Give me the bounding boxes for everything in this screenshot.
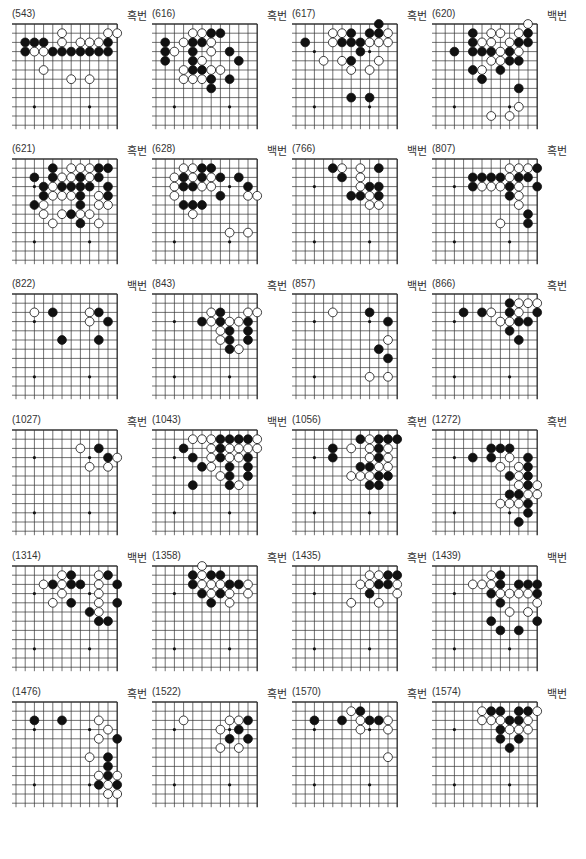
go-problem: (1435)흑번 [292, 550, 427, 678]
black-stone [225, 734, 234, 743]
white-stone [505, 173, 514, 182]
black-stone [94, 164, 103, 173]
white-stone [234, 444, 243, 453]
white-stone [104, 462, 113, 471]
white-stone [478, 716, 487, 725]
black-stone [207, 598, 216, 607]
black-stone [198, 173, 207, 182]
black-stone [356, 38, 365, 47]
white-stone [328, 308, 337, 317]
white-stone [393, 580, 402, 589]
black-stone [505, 299, 514, 308]
white-stone [58, 589, 67, 598]
black-stone [207, 84, 216, 93]
black-stone [179, 173, 188, 182]
white-stone [533, 299, 542, 308]
turn-label: 흑번 [127, 7, 147, 23]
black-stone [67, 571, 76, 580]
white-stone [374, 571, 383, 580]
black-stone [365, 481, 374, 490]
black-stone [94, 617, 103, 626]
black-stone [514, 734, 523, 743]
white-stone [384, 444, 393, 453]
star-point [228, 783, 231, 786]
white-stone [94, 608, 103, 617]
turn-label: 백번 [547, 685, 567, 701]
white-stone [253, 435, 262, 444]
go-board [152, 698, 269, 813]
star-point [173, 240, 176, 243]
problem-number: (1358) [152, 550, 181, 561]
white-stone [338, 56, 347, 65]
star-point [88, 592, 91, 595]
black-stone [328, 164, 337, 173]
black-stone [58, 716, 67, 725]
white-stone [365, 38, 374, 47]
black-stone [347, 38, 356, 47]
black-stone [94, 336, 103, 345]
white-stone [234, 716, 243, 725]
problem-number: (1435) [292, 550, 321, 561]
white-stone [496, 589, 505, 598]
black-stone [58, 336, 67, 345]
black-stone [496, 66, 505, 75]
white-stone [533, 490, 542, 499]
black-stone [188, 201, 197, 210]
white-stone [244, 228, 253, 237]
black-stone [478, 75, 487, 84]
black-stone [39, 182, 48, 191]
go-board [152, 155, 269, 270]
black-stone [514, 336, 523, 345]
black-stone [76, 580, 85, 589]
white-stone [58, 191, 67, 200]
go-problem: (1574)백번 [432, 686, 567, 814]
white-stone [48, 191, 57, 200]
white-stone [216, 326, 225, 335]
white-stone [225, 317, 234, 326]
black-stone [104, 617, 113, 626]
turn-label: 흑번 [127, 685, 147, 701]
black-stone [198, 589, 207, 598]
go-problem: (1314)백번 [12, 550, 147, 678]
white-stone [524, 716, 533, 725]
black-stone [113, 580, 122, 589]
white-stone [505, 317, 514, 326]
white-stone [487, 29, 496, 38]
black-stone [505, 716, 514, 725]
white-stone [216, 472, 225, 481]
problem-number: (1056) [292, 414, 321, 425]
go-board [12, 426, 129, 541]
white-stone [384, 716, 393, 725]
star-point [88, 783, 91, 786]
white-stone [384, 453, 393, 462]
white-stone [505, 453, 514, 462]
black-stone [104, 47, 113, 56]
black-stone [216, 589, 225, 598]
black-stone [161, 47, 170, 56]
problem-number: (807) [432, 143, 455, 154]
star-point [173, 375, 176, 378]
white-stone [58, 580, 67, 589]
white-stone [496, 462, 505, 471]
black-stone [76, 201, 85, 210]
black-stone [48, 164, 57, 173]
black-stone [76, 191, 85, 200]
go-board [12, 698, 129, 813]
white-stone [365, 372, 374, 381]
white-stone [514, 472, 523, 481]
white-stone [94, 580, 103, 589]
star-point [508, 375, 511, 378]
go-board [432, 20, 549, 135]
white-stone [514, 47, 523, 56]
black-stone [301, 38, 310, 47]
black-stone [207, 164, 216, 173]
go-board [432, 426, 549, 541]
white-stone [496, 499, 505, 508]
go-problem: (1043)백번 [152, 414, 287, 542]
black-stone [94, 444, 103, 453]
problem-number: (616) [152, 8, 175, 19]
black-stone [161, 56, 170, 65]
white-stone [496, 716, 505, 725]
black-stone [365, 589, 374, 598]
white-stone [85, 173, 94, 182]
